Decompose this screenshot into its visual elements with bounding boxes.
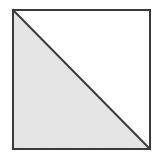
- geometry-figure: [0, 0, 159, 161]
- figure-canvas: [0, 0, 159, 161]
